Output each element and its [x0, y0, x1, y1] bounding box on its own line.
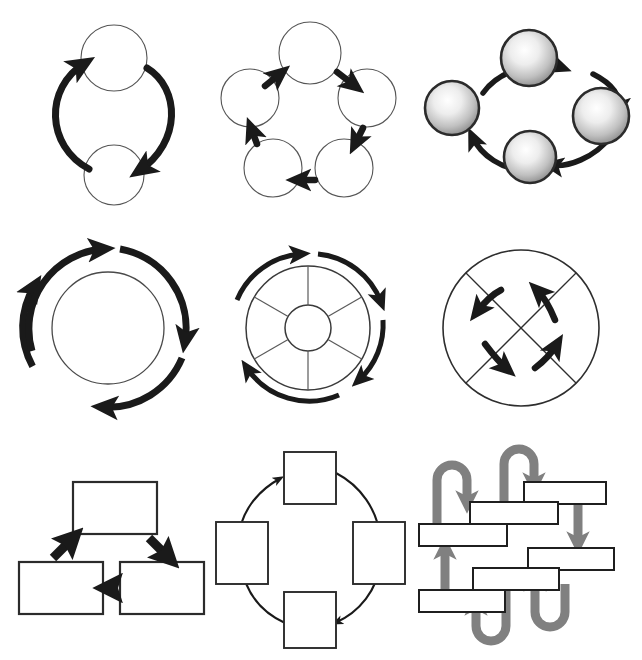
diagram-four-sphere-cycle[interactable]	[415, 10, 637, 220]
arrow-straight[interactable]	[251, 128, 257, 144]
node-square[interactable]	[284, 452, 336, 504]
node-sphere[interactable]	[425, 81, 479, 135]
arrow-straight[interactable]	[53, 538, 73, 558]
diagram-four-box-circular-cycle[interactable]	[205, 440, 415, 655]
node-square[interactable]	[353, 522, 405, 584]
inner-circle[interactable]	[52, 272, 164, 384]
diagram-two-node-cycle[interactable]	[8, 10, 213, 220]
node-circle[interactable]	[279, 22, 341, 84]
diagram-serpentine-bar-flow[interactable]	[415, 440, 637, 655]
node-circle[interactable]	[315, 139, 373, 197]
arrow-straight[interactable]	[355, 128, 363, 144]
node-circle[interactable]	[244, 139, 302, 197]
node-sphere[interactable]	[573, 88, 629, 144]
node-circle[interactable]	[81, 25, 147, 91]
diagram-three-arc-ring[interactable]	[8, 228, 213, 428]
arrow-u-turn-gray[interactable]	[437, 465, 467, 528]
node-bar[interactable]	[528, 548, 614, 570]
diagram-three-box-triangle-cycle[interactable]	[8, 440, 213, 655]
diagram-crossed-circle-rotation[interactable]	[415, 228, 637, 428]
node-bar[interactable]	[470, 502, 558, 524]
node-square[interactable]	[284, 592, 336, 648]
wheel-hub[interactable]	[285, 305, 331, 351]
arrow-straight[interactable]	[149, 538, 169, 558]
diagram-five-node-pentagon-cycle[interactable]	[205, 10, 415, 220]
node-bar[interactable]	[419, 524, 507, 546]
node-sphere[interactable]	[504, 131, 556, 183]
node-bar[interactable]	[473, 568, 559, 590]
node-bar[interactable]	[419, 590, 505, 612]
arrow-curved-clockwise[interactable]	[55, 63, 89, 169]
node-circle[interactable]	[84, 145, 144, 205]
figure-canvas	[0, 0, 642, 660]
arrow-curved-clockwise[interactable]	[139, 68, 172, 171]
node-square[interactable]	[216, 522, 268, 584]
node-sphere[interactable]	[501, 30, 557, 86]
node-rectangle[interactable]	[120, 562, 204, 614]
node-bar[interactable]	[524, 482, 606, 504]
diagram-spoked-wheel-cycle[interactable]	[205, 228, 415, 428]
node-rectangle[interactable]	[73, 482, 157, 534]
node-rectangle[interactable]	[19, 562, 103, 614]
